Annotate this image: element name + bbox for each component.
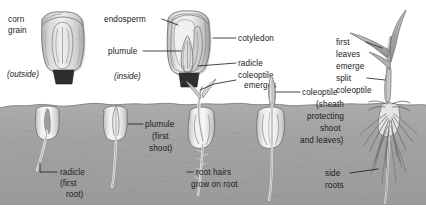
label-coleoptile-sheath-4: shoot bbox=[320, 124, 341, 133]
label-root-hairs-2: grow on root bbox=[191, 180, 238, 189]
label-first-leaves-1: first bbox=[336, 38, 350, 47]
label-plumule-first-shoot-2: (first bbox=[152, 132, 169, 141]
label-coleoptile-sheath-5: and leaves) bbox=[300, 136, 344, 145]
label-radicle-first-root-1: radicle bbox=[60, 168, 85, 177]
label-split-1: split bbox=[336, 74, 352, 83]
label-radicle-first-root-2: (first bbox=[60, 179, 77, 188]
label-first-leaves-3: emerge bbox=[336, 62, 365, 71]
label-coleoptile-sheath-1: coleoptile bbox=[302, 88, 338, 97]
label-first-leaves-2: leaves bbox=[336, 50, 360, 59]
label-corn-grain-line2: grain bbox=[8, 26, 27, 35]
label-split-2: coleoptile bbox=[336, 86, 372, 95]
label-plumule-top: plumule bbox=[108, 47, 138, 56]
diagram-page: corn grain (outside) endosperm plumule bbox=[0, 0, 426, 217]
label-plumule-first-shoot-3: shoot) bbox=[149, 144, 173, 153]
label-coleoptile-emerges-1: coleoptile bbox=[238, 71, 274, 80]
label-coleoptile-sheath-3: protecting bbox=[307, 112, 344, 121]
grain-pedicel bbox=[53, 70, 74, 84]
label-inside: (inside) bbox=[114, 72, 141, 81]
seed-6-body bbox=[257, 107, 285, 148]
label-side-roots-2: roots bbox=[325, 181, 344, 190]
label-coleoptile-sheath-2: (sheath bbox=[316, 100, 344, 109]
label-radicle-first-root-3: root) bbox=[66, 190, 84, 199]
label-side-roots-1: side bbox=[325, 169, 341, 178]
label-radicle-top: radicle bbox=[238, 59, 263, 68]
label-corn-grain-line1: corn bbox=[8, 15, 25, 24]
label-endosperm: endosperm bbox=[104, 15, 146, 24]
germination-diagram: corn grain (outside) endosperm plumule bbox=[0, 0, 426, 217]
label-plumule-first-shoot-1: plumule bbox=[145, 120, 175, 129]
label-outside: (outside) bbox=[7, 70, 39, 79]
label-root-hairs-1: root hairs bbox=[196, 168, 231, 177]
label-cotyledon: cotyledon bbox=[238, 34, 274, 43]
